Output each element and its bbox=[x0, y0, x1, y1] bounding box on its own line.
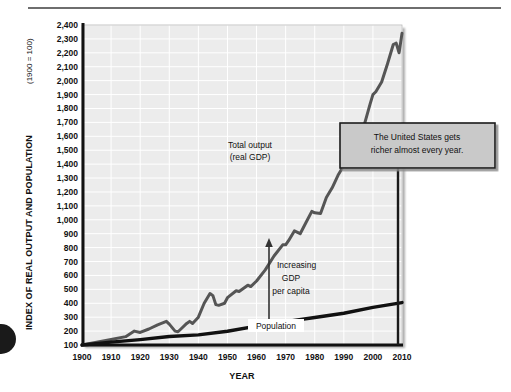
population-label-text: Population bbox=[256, 321, 296, 331]
gdp-per-capita-label-line1: Increasing bbox=[277, 260, 316, 270]
x-tick-label: 1900 bbox=[73, 352, 92, 362]
y-tick-label: 1,000 bbox=[57, 215, 79, 225]
x-tick-label: 1930 bbox=[160, 352, 179, 362]
y-tick-label: 1,300 bbox=[57, 173, 79, 183]
y-tick-label: 2,300 bbox=[57, 34, 79, 44]
y-tick-label: 1,600 bbox=[57, 131, 79, 141]
x-axis-title: YEAR bbox=[229, 371, 255, 381]
gdp-per-capita-label-line3: per capita bbox=[272, 286, 310, 296]
y-tick-label: 400 bbox=[64, 298, 78, 308]
y-axis-title-text: INDEX OF REAL OUTPUT AND POPULATION bbox=[24, 135, 34, 330]
callout-text-line1: The United States gets bbox=[374, 132, 460, 142]
y-tick-label: 100 bbox=[64, 340, 78, 350]
x-tick-label: 1990 bbox=[334, 352, 353, 362]
y-tick-label: 2,000 bbox=[57, 76, 79, 86]
y-tick-label: 1,800 bbox=[57, 103, 79, 113]
y-tick-label: 300 bbox=[64, 312, 78, 322]
x-tick-label: 1920 bbox=[131, 352, 150, 362]
y-tick-label: 1,100 bbox=[57, 201, 79, 211]
y-tick-labels: 1002003004005006007008009001,0001,1001,2… bbox=[57, 20, 79, 350]
x-tick-labels: 1900191019201930194019501960197019801990… bbox=[73, 352, 412, 362]
x-tick-label: 1910 bbox=[102, 352, 121, 362]
y-tick-label: 2,200 bbox=[57, 48, 79, 58]
plot-area bbox=[82, 25, 402, 345]
y-axis-title-note: (1900 = 100) bbox=[25, 38, 34, 84]
y-tick-label: 200 bbox=[64, 326, 78, 336]
y-tick-label: 1,200 bbox=[57, 187, 79, 197]
x-tick-label: 2000 bbox=[363, 352, 382, 362]
x-tick-label: 1980 bbox=[305, 352, 324, 362]
callout-text-line2: richer almost every year. bbox=[371, 145, 464, 155]
x-tick-label: 1960 bbox=[247, 352, 266, 362]
plot-background bbox=[82, 25, 402, 345]
x-tick-label: 1940 bbox=[189, 352, 208, 362]
y-axis-title: INDEX OF REAL OUTPUT AND POPULATION (190… bbox=[24, 38, 34, 330]
figure-container: 1002003004005006007008009001,0001,1001,2… bbox=[0, 0, 511, 392]
series-label-population: Population bbox=[248, 319, 304, 332]
y-tick-label: 1,400 bbox=[57, 159, 79, 169]
y-tick-label: 900 bbox=[64, 229, 78, 239]
y-tick-label: 2,100 bbox=[57, 62, 79, 72]
y-tick-label: 800 bbox=[64, 243, 78, 253]
y-tick-label: 1,700 bbox=[57, 117, 79, 127]
y-tick-label: 600 bbox=[64, 270, 78, 280]
x-tick-label: 1950 bbox=[218, 352, 237, 362]
y-tick-label: 1,500 bbox=[57, 145, 79, 155]
x-tick-label: 2010 bbox=[393, 352, 412, 362]
x-tick-label: 1970 bbox=[276, 352, 295, 362]
y-tick-label: 1,900 bbox=[57, 90, 79, 100]
line-chart: 1002003004005006007008009001,0001,1001,2… bbox=[0, 0, 511, 392]
y-tick-label: 500 bbox=[64, 284, 78, 294]
total-output-label-line1: Total output bbox=[228, 140, 273, 150]
y-tick-label: 2,400 bbox=[57, 20, 79, 30]
y-tick-label: 700 bbox=[64, 257, 78, 267]
gdp-per-capita-label-line2: GDP bbox=[282, 273, 301, 283]
total-output-label-line2: (real GDP) bbox=[230, 152, 271, 162]
